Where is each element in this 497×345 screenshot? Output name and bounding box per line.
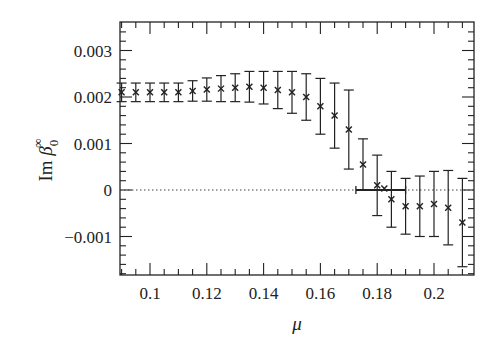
data-points bbox=[117, 71, 468, 266]
y-axis-label: Im β0∞ bbox=[30, 138, 61, 181]
data-point bbox=[443, 170, 453, 244]
y-axis-label-prefix: Im bbox=[35, 156, 56, 182]
svg-text:Im β0∞: Im β0∞ bbox=[30, 138, 61, 181]
data-point bbox=[301, 74, 311, 121]
x-tick-label: 0.18 bbox=[362, 284, 392, 303]
data-point bbox=[429, 171, 439, 236]
data-point bbox=[330, 83, 340, 148]
data-point bbox=[315, 78, 325, 134]
y-tick-label: −0.001 bbox=[64, 228, 112, 247]
x-tick-label: 0.2 bbox=[423, 284, 444, 303]
x-tick-label: 0.12 bbox=[192, 284, 222, 303]
data-point bbox=[216, 76, 226, 102]
data-point bbox=[344, 90, 354, 169]
x-tick-label: 0.14 bbox=[249, 284, 279, 303]
data-point bbox=[259, 71, 269, 104]
tick-labels: 0.10.120.140.160.180.2−0.00100.0010.0020… bbox=[64, 42, 444, 304]
y-tick-label: 0 bbox=[104, 181, 113, 200]
y-tick-label: 0.002 bbox=[74, 88, 112, 107]
y-axis-label-superscript: ∞ bbox=[30, 138, 45, 147]
data-point bbox=[386, 171, 396, 227]
data-point bbox=[457, 178, 467, 266]
data-point bbox=[131, 83, 141, 102]
data-point bbox=[358, 139, 368, 190]
data-point bbox=[188, 81, 198, 101]
data-point bbox=[415, 176, 425, 236]
x-tick-label: 0.16 bbox=[306, 284, 336, 303]
y-tick-label: 0.001 bbox=[74, 135, 112, 154]
data-point bbox=[372, 155, 382, 215]
data-point bbox=[173, 83, 183, 102]
data-point bbox=[145, 83, 155, 102]
y-tick-label: 0.003 bbox=[74, 42, 112, 61]
data-point bbox=[287, 71, 297, 113]
data-point bbox=[273, 71, 283, 108]
x-tick-label: 0.1 bbox=[139, 284, 160, 303]
data-point bbox=[202, 78, 212, 101]
data-point bbox=[244, 71, 254, 102]
data-point bbox=[117, 83, 127, 102]
chart: 0.10.120.140.160.180.2−0.00100.0010.0020… bbox=[0, 0, 497, 345]
data-point bbox=[159, 83, 169, 102]
y-axis-label-subscript: 0 bbox=[46, 140, 61, 147]
data-point bbox=[230, 74, 240, 102]
x-axis-label: μ bbox=[291, 313, 302, 334]
